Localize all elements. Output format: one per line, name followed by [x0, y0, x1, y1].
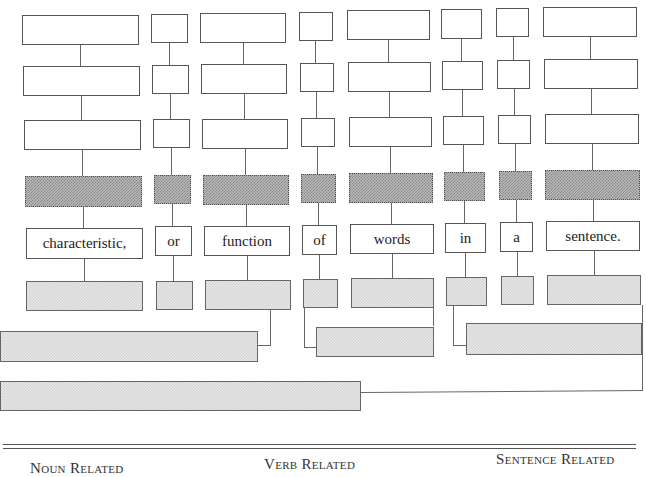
light-box-col7	[501, 276, 534, 305]
footer-label-verb-related: Verb Related	[264, 456, 355, 473]
blank-box-col5-row1	[347, 10, 430, 40]
connector	[169, 43, 170, 65]
word-box-characteristic: characteristic,	[26, 228, 143, 259]
blank-box-col6-row1	[441, 9, 482, 39]
group-box-characteristic-or-function	[0, 331, 258, 362]
bracket-connector	[453, 345, 466, 346]
divider-line-bottom	[3, 448, 636, 449]
dark-box-col3	[203, 175, 289, 205]
connector	[516, 200, 517, 222]
blank-box-col8-row3	[545, 114, 639, 144]
connector	[315, 41, 316, 63]
word-box-words: words	[350, 224, 434, 254]
connector	[390, 147, 391, 173]
dark-box-col6	[444, 172, 485, 201]
connector	[83, 207, 84, 228]
connector	[517, 252, 518, 276]
blank-box-col7-row1	[496, 8, 529, 37]
bracket-connector	[642, 305, 643, 390]
blank-box-col4-row2	[300, 63, 334, 92]
connector	[514, 89, 515, 115]
connector	[391, 203, 392, 224]
word-text: or	[167, 233, 180, 250]
word-text: in	[460, 230, 472, 247]
connector	[515, 144, 516, 171]
connector	[594, 251, 595, 275]
dark-box-col4	[301, 174, 336, 203]
connector	[245, 149, 246, 175]
footer-label-sentence-related: Sentence Related	[496, 451, 615, 468]
blank-box-col3-row1	[200, 13, 286, 43]
word-box-sentence: sentence.	[546, 221, 640, 251]
word-box-a: a	[500, 222, 533, 252]
blank-box-col4-row3	[301, 118, 335, 147]
light-box-col5	[351, 278, 434, 308]
footer-label-noun-related: Noun Related	[30, 460, 124, 477]
dark-box-col7	[499, 171, 532, 200]
bracket-connector	[304, 308, 305, 348]
connector	[461, 39, 462, 61]
word-text: words	[374, 231, 411, 248]
light-box-col6	[446, 277, 487, 306]
connector	[170, 94, 171, 119]
connector	[244, 94, 245, 119]
group-box-final	[0, 381, 361, 411]
blank-box-col3-row3	[202, 119, 288, 149]
blank-box-col1-row2	[23, 66, 140, 96]
connector	[513, 37, 514, 60]
bracket-connector	[361, 390, 643, 393]
word-box-or: or	[155, 226, 192, 256]
bracket-connector	[453, 306, 454, 346]
dark-box-col2	[154, 175, 191, 204]
connector	[590, 37, 591, 59]
blank-box-col2-row3	[153, 119, 190, 148]
connector	[392, 254, 393, 278]
connector	[464, 201, 465, 223]
blank-box-col7-row2	[497, 60, 530, 89]
blank-box-col5-row2	[348, 62, 431, 92]
connector	[84, 259, 85, 281]
connector	[171, 148, 172, 175]
connector	[243, 43, 244, 64]
word-box-of: of	[302, 225, 337, 255]
light-box-col2	[156, 281, 193, 310]
dark-box-col8	[545, 170, 640, 200]
bracket-connector	[258, 345, 271, 346]
connector	[247, 256, 248, 280]
connector	[318, 203, 319, 225]
group-box-in-a-sentence	[466, 323, 642, 355]
word-text: a	[513, 229, 520, 246]
connector	[317, 147, 318, 174]
dark-box-col5	[349, 173, 433, 203]
word-text: sentence.	[565, 228, 620, 245]
blank-box-col7-row3	[498, 115, 531, 144]
light-box-col8	[547, 275, 641, 305]
connector	[462, 90, 463, 116]
blank-box-col8-row2	[544, 59, 638, 89]
bracket-connector	[433, 308, 434, 326]
connector	[592, 144, 593, 170]
blank-box-col6-row3	[443, 116, 484, 145]
connector	[246, 205, 247, 226]
connector	[80, 45, 81, 66]
bracket-connector	[270, 310, 271, 346]
light-box-col4	[303, 279, 338, 308]
blank-box-col8-row1	[543, 7, 637, 37]
word-text: of	[313, 232, 326, 249]
connector	[463, 145, 464, 172]
word-text: function	[222, 233, 272, 250]
blank-box-col6-row2	[442, 61, 483, 90]
connector	[81, 96, 82, 120]
blank-box-col5-row3	[349, 117, 432, 147]
connector	[172, 204, 173, 226]
connector	[173, 256, 174, 281]
connector	[319, 255, 320, 279]
word-text: characteristic,	[43, 235, 127, 252]
blank-box-col4-row1	[299, 12, 333, 41]
blank-box-col1-row3	[24, 120, 141, 150]
connector	[82, 150, 83, 176]
blank-box-col3-row2	[201, 64, 287, 94]
light-box-col3	[205, 280, 291, 310]
group-box-of-words	[316, 327, 434, 357]
word-box-in: in	[445, 223, 486, 253]
